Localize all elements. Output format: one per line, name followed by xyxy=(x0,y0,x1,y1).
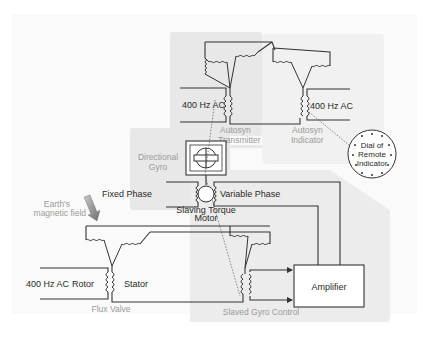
rotor-label: Rotor xyxy=(72,279,94,289)
slaving-torque-label-2: Motor xyxy=(194,213,217,223)
diagram-canvas: 400 Hz AC Autosyn Transmitter 400 Hz AC … xyxy=(0,0,429,343)
earth-field-label-2: magnetic field xyxy=(34,208,87,218)
directional-gyro-label-2: Gyro xyxy=(149,162,168,172)
dial-label-1: Dial of xyxy=(361,141,384,150)
variable-phase-label: Variable Phase xyxy=(220,189,280,199)
indicator-ac-label: 400 Hz AC xyxy=(310,101,354,111)
flux-valve-label: Flux Valve xyxy=(91,304,130,314)
amplifier-label: Amplifier xyxy=(311,282,346,292)
autosyn-transmitter-label-1: Autosyn xyxy=(220,125,251,135)
autosyn-indicator-label-1: Autosyn xyxy=(292,125,323,135)
transmitter-ac-label: 400 Hz AC xyxy=(182,100,226,110)
directional-gyro-label-1: Directional xyxy=(138,152,178,162)
slaved-gyro-control-label: Slaved Gyro Control xyxy=(223,307,300,317)
fixed-phase-label: Fixed Phase xyxy=(102,189,152,199)
dial-label-3: Indicator xyxy=(357,159,388,168)
stator-label: Stator xyxy=(124,279,148,289)
rotor-ac-label: 400 Hz AC xyxy=(26,279,70,289)
autosyn-indicator-label-2: Indicator xyxy=(291,135,324,145)
dial-label-2: Remote xyxy=(358,150,387,159)
